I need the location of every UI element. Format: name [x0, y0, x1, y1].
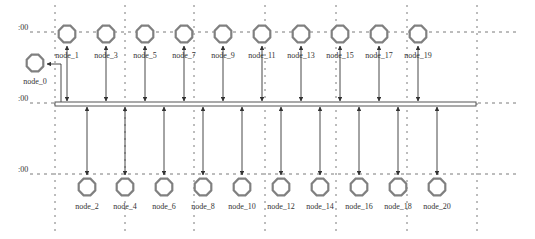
node-label: node_16 — [345, 202, 373, 211]
top-node-octagon[interactable] — [293, 26, 310, 43]
top-node-octagon[interactable] — [98, 26, 115, 43]
bottom-node-octagon[interactable] — [273, 179, 290, 196]
node-0-octagon[interactable] — [27, 55, 44, 72]
bottom-node-octagon[interactable] — [390, 179, 407, 196]
node-label: node_7 — [172, 51, 196, 60]
bottom-node-octagon[interactable] — [195, 179, 212, 196]
top-node-octagon[interactable] — [215, 26, 232, 43]
node-label: node_17 — [365, 51, 393, 60]
bottom-node-octagon[interactable] — [117, 179, 134, 196]
grid-row-label: :00 — [18, 23, 28, 32]
top-node-octagon[interactable] — [410, 26, 427, 43]
grid-row-labels: :00:00:00 — [18, 23, 28, 174]
bottom-node-octagon[interactable] — [312, 179, 329, 196]
node-label: node_9 — [211, 51, 235, 60]
bus-bar — [55, 102, 476, 106]
node-label: node_4 — [113, 202, 137, 211]
bottom-node-octagon[interactable] — [351, 179, 368, 196]
node-label: node_2 — [75, 202, 99, 211]
top-node-octagon[interactable] — [254, 26, 271, 43]
node-label: node_20 — [423, 202, 451, 211]
grid-row-label: :00 — [18, 94, 28, 103]
node-label: node_0 — [23, 77, 47, 86]
bottom-node-octagon[interactable] — [156, 179, 173, 196]
node-label: node_3 — [94, 51, 118, 60]
node-label: node_14 — [306, 202, 334, 211]
node-label: node_1 — [55, 51, 79, 60]
top-node-octagon[interactable] — [176, 26, 193, 43]
node-label: node_18 — [384, 202, 412, 211]
node-label: node_12 — [267, 202, 295, 211]
grid-row-label: :00 — [18, 165, 28, 174]
node-label: node_5 — [133, 51, 157, 60]
bottom-node-octagon[interactable] — [79, 179, 96, 196]
edge-node-0 — [47, 64, 61, 102]
top-node-octagon[interactable] — [59, 26, 76, 43]
edges — [47, 46, 437, 175]
bus-line — [55, 102, 476, 106]
node-label: node_11 — [248, 51, 275, 60]
node-label: node_8 — [191, 202, 215, 211]
bottom-node-octagon[interactable] — [429, 179, 446, 196]
top-node-octagon[interactable] — [137, 26, 154, 43]
node-label: node_19 — [404, 51, 432, 60]
top-node-octagon[interactable] — [332, 26, 349, 43]
top-node-octagon[interactable] — [371, 26, 388, 43]
node-label: node_15 — [326, 51, 354, 60]
node-label: node_10 — [228, 202, 256, 211]
network-diagram: :00:00:00 node_0node_1node_3node_5node_7… — [0, 0, 535, 239]
node-label: node_6 — [152, 202, 176, 211]
node-label: node_13 — [287, 51, 315, 60]
bottom-node-octagon[interactable] — [234, 179, 251, 196]
